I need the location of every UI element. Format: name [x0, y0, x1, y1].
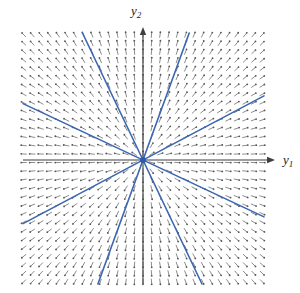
y-axis-label-subscript: 2: [137, 10, 142, 20]
phase-portrait-figure: y2 y1: [0, 0, 300, 293]
phase-portrait-svg: y2 y1: [0, 0, 300, 293]
origin-point: [140, 157, 146, 163]
x-axis-label: y1: [281, 152, 293, 169]
x-axis-label-subscript: 1: [289, 159, 294, 169]
y-axis-label: y2: [129, 3, 142, 20]
coordinate-axes: [23, 27, 275, 284]
